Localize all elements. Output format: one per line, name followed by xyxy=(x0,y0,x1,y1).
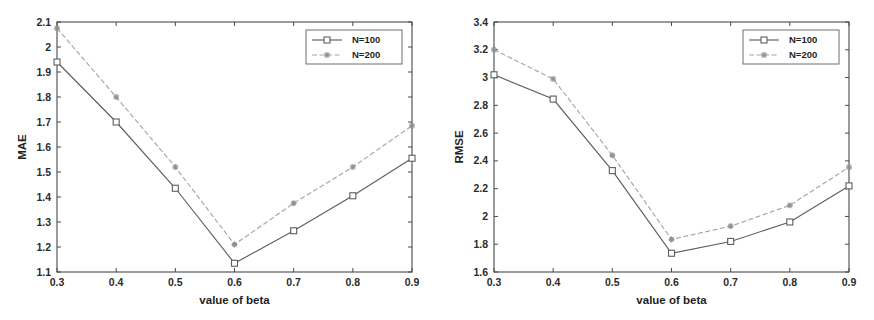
x-tick-label: 0.4 xyxy=(546,276,561,288)
y-tick-label: 3 xyxy=(482,71,488,83)
x-tick-label: 0.6 xyxy=(664,276,679,288)
x-tick-label: 0.6 xyxy=(227,276,242,288)
series-line-n200 xyxy=(494,50,849,240)
y-tick-label: 1.2 xyxy=(36,241,51,253)
y-tick-label: 2.2 xyxy=(473,182,488,194)
data-point-marker-star xyxy=(787,202,793,208)
legend-label: N=200 xyxy=(352,49,380,60)
x-tick-label: 0.4 xyxy=(109,276,124,288)
rmse-chart-svg: 0.30.40.50.60.70.80.91.61.822.22.42.62.8… xyxy=(437,0,874,320)
y-tick-label: 1.8 xyxy=(36,91,51,103)
legend: N=100N=200 xyxy=(306,30,402,64)
y-tick-label: 1.3 xyxy=(36,216,51,228)
y-tick-label: 3.2 xyxy=(473,43,488,55)
x-axis-title: value of beta xyxy=(636,294,707,306)
legend-label: N=200 xyxy=(789,49,817,60)
data-point-marker-square xyxy=(113,119,119,125)
y-axis-title: RMSE xyxy=(453,130,465,164)
data-point-marker-square xyxy=(550,96,556,102)
legend-label: N=100 xyxy=(352,34,380,45)
data-point-marker-square xyxy=(491,72,497,78)
data-point-marker-square xyxy=(728,238,734,244)
x-tick-label: 0.3 xyxy=(50,276,65,288)
data-point-marker-square xyxy=(350,193,356,199)
data-point-marker-square xyxy=(609,168,615,174)
y-tick-label: 1.6 xyxy=(36,141,51,153)
x-tick-label: 0.3 xyxy=(487,276,502,288)
x-tick-label: 0.8 xyxy=(346,276,361,288)
y-tick-label: 1.4 xyxy=(36,191,51,203)
x-tick-label: 0.7 xyxy=(723,276,738,288)
data-point-marker-square xyxy=(669,250,675,256)
data-point-marker-square xyxy=(172,185,178,191)
y-tick-label: 2.4 xyxy=(473,154,488,166)
y-tick-label: 3.4 xyxy=(473,16,488,28)
y-tick-label: 1.6 xyxy=(473,266,488,278)
data-point-marker-square xyxy=(54,59,60,65)
y-tick-label: 2.6 xyxy=(473,127,488,139)
data-point-marker-square xyxy=(291,228,297,234)
data-point-marker-star xyxy=(846,164,852,170)
y-tick-label: 2 xyxy=(45,41,51,53)
chart-panel-mae: 0.30.40.50.60.70.80.91.11.21.31.41.51.61… xyxy=(0,0,437,320)
legend-label: N=100 xyxy=(789,34,817,45)
y-tick-label: 1.7 xyxy=(36,116,51,128)
y-tick-label: 1.9 xyxy=(36,66,51,78)
chart-panel-rmse: 0.30.40.50.60.70.80.91.61.822.22.42.62.8… xyxy=(437,0,874,320)
data-point-marker-star xyxy=(172,164,178,170)
y-tick-label: 1.1 xyxy=(36,266,51,278)
mae-chart-svg: 0.30.40.50.60.70.80.91.11.21.31.41.51.61… xyxy=(0,0,437,320)
x-tick-label: 0.7 xyxy=(286,276,301,288)
y-tick-label: 2.8 xyxy=(473,99,488,111)
data-point-marker-star xyxy=(669,236,675,242)
x-tick-label: 0.8 xyxy=(783,276,798,288)
figure-container: 0.30.40.50.60.70.80.91.11.21.31.41.51.61… xyxy=(0,0,874,320)
y-tick-label: 2 xyxy=(482,210,488,222)
y-axis-title: MAE xyxy=(16,134,28,160)
data-point-marker-star xyxy=(728,223,734,229)
data-point-marker-square xyxy=(232,260,238,266)
data-point-marker-star xyxy=(232,242,238,248)
data-point-marker-star xyxy=(491,47,497,53)
y-tick-label: 2.1 xyxy=(36,16,51,28)
data-point-marker-square xyxy=(787,219,793,225)
data-point-marker-square xyxy=(409,155,415,161)
legend: N=100N=200 xyxy=(743,30,839,64)
x-tick-label: 0.5 xyxy=(168,276,183,288)
series-line-n100 xyxy=(494,75,849,253)
x-axis-title: value of beta xyxy=(199,294,270,306)
y-tick-label: 1.5 xyxy=(36,166,51,178)
data-point-marker-square xyxy=(846,183,852,189)
x-tick-label: 0.5 xyxy=(605,276,620,288)
x-tick-label: 0.9 xyxy=(842,276,857,288)
legend-marker-square xyxy=(324,37,330,43)
x-tick-label: 0.9 xyxy=(405,276,420,288)
legend-marker-square xyxy=(761,37,767,43)
y-tick-label: 1.8 xyxy=(473,238,488,250)
